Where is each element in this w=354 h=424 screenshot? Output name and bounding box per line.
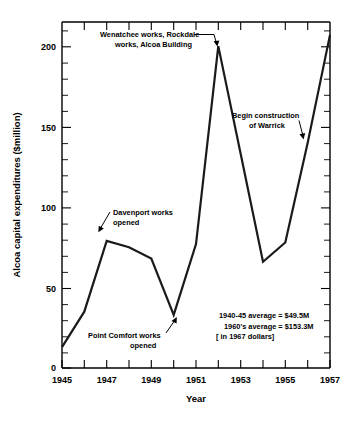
annotation-davenport-line1: Davenport works [113,208,173,217]
annotation-warrick-line2: of Warrick [249,121,286,130]
y-axis-minor-ticks [62,31,68,353]
line-chart: 0 50 100 150 200 1945 1947 1949 1951 195… [0,0,354,424]
y-tick-label-150: 150 [41,123,56,133]
x-tick-label-1947: 1947 [97,375,117,385]
annotation-pointcomfort-line2: opened [130,341,157,350]
y-axis-title: Alcoa capital expenditures ($million) [11,112,22,277]
statistics-note-line3: [ in 1967 dollars] [216,332,275,341]
chart-container: 0 50 100 150 200 1945 1947 1949 1951 195… [0,0,354,424]
y-tick-label-50: 50 [46,284,56,294]
x-tick-label-1945: 1945 [52,375,72,385]
x-tick-label-1957: 1957 [320,375,340,385]
y-tick-label-100: 100 [41,203,56,213]
statistics-note-line1: 1940-45 average = $49.5M [219,311,309,320]
x-tick-label-1949: 1949 [141,375,161,385]
x-tick-label-1955: 1955 [275,375,295,385]
y-tick-label-0: 0 [51,363,56,373]
x-tick-label-1953: 1953 [231,375,251,385]
statistics-note-line2: 1960's average = $153.3M [224,322,314,331]
x-tick-label-1951: 1951 [186,375,206,385]
annotation-wenatchee-line2: works, Alcoa Building [114,40,192,49]
x-axis-title: Year [186,393,206,404]
y-tick-label-200: 200 [41,42,56,52]
annotation-wenatchee-line1: Wenatchee works, Rockdale [100,30,199,39]
annotation-warrick-line1: Begin construction [232,111,300,120]
annotation-pointcomfort-line1: Point Comfort works [88,331,161,340]
annotation-davenport-line2: opened [113,218,140,227]
